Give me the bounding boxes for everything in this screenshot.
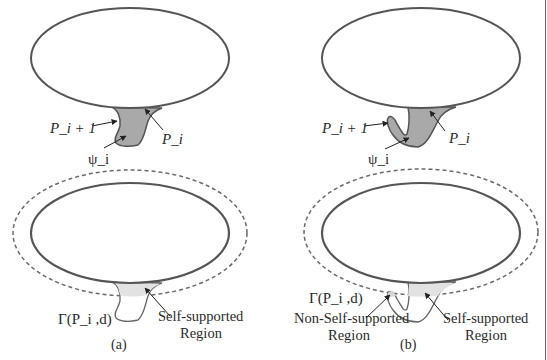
panel-b-top: P_i + 1 P_i ψ_i (321, 8, 520, 167)
panel-b-bottom: Γ(P_i ,d) Non-Self-supported Region Self… (294, 169, 538, 353)
label-gamma-a: Γ(P_i ,d) (58, 311, 112, 328)
label-psi-a: ψ_i (88, 151, 109, 167)
label-nonself-b-1: Non-Self-supported (294, 310, 410, 326)
right-edge-rule (545, 0, 546, 360)
caption-b: (b) (400, 337, 417, 353)
panel-a-top: P_i + 1 P_i ψ_i (31, 8, 229, 167)
label-self-a-2: Region (180, 325, 223, 341)
psi-region-a (112, 107, 162, 146)
label-psi-b: ψ_i (368, 151, 389, 167)
self-supported-fill-b (408, 283, 454, 297)
label-p-next-a: P_i + 1 (49, 120, 96, 136)
layer-ellipse-b-top (322, 8, 520, 108)
label-self-b-2: Region (465, 327, 508, 343)
label-p-i-a: P_i (161, 131, 183, 147)
layer-ellipse-a-top (31, 8, 229, 108)
panel-a-bottom: Γ(P_i ,d) Self-supported Region (a) (13, 170, 247, 353)
layer-ellipse-a-bottom (31, 183, 229, 283)
label-nonself-b-2: Region (328, 327, 371, 343)
label-p-next-b: P_i + 1 (321, 120, 368, 136)
psi-region-b (387, 107, 456, 147)
label-self-b-1: Self-supported (443, 310, 529, 326)
caption-a: (a) (111, 337, 127, 353)
layer-ellipse-b-bottom (322, 183, 520, 283)
label-self-a-1: Self-supported (158, 308, 244, 324)
label-gamma-b: Γ(P_i ,d) (309, 290, 363, 307)
figure-canvas: P_i + 1 P_i ψ_i P_i + 1 P_i ψ_i Γ(P_i ,d… (0, 0, 547, 360)
label-p-i-b: P_i (448, 130, 470, 146)
